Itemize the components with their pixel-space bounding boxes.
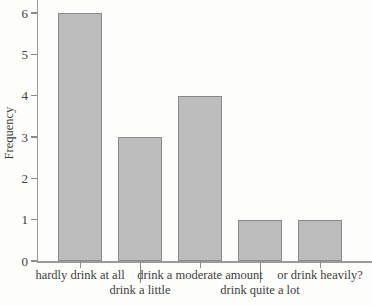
y-tick	[31, 219, 37, 221]
y-tick	[31, 136, 37, 138]
y-axis-line	[37, 0, 39, 263]
x-axis-label: hardly drink at all	[35, 268, 124, 282]
x-tick	[200, 261, 201, 268]
y-tick	[31, 54, 37, 56]
x-axis-label: or drink heavily?	[277, 268, 362, 282]
y-tick	[31, 178, 37, 180]
bar	[238, 220, 282, 261]
y-tick-label: 0	[6, 255, 28, 268]
x-tick	[320, 261, 321, 268]
bar	[298, 220, 342, 261]
y-tick-label: 6	[6, 7, 28, 20]
y-tick-label: 2	[6, 172, 28, 185]
y-tick	[31, 95, 37, 97]
y-tick-label: 3	[6, 131, 28, 144]
bar	[58, 13, 102, 261]
y-tick-label: 1	[6, 213, 28, 226]
x-tick	[80, 261, 81, 268]
bar-chart-figure: Frequency 0123456 hardly drink at alldri…	[0, 0, 372, 306]
y-tick-label: 5	[6, 48, 28, 61]
x-axis-label: drink quite a lot	[220, 283, 300, 297]
x-axis-label: drink a little	[109, 283, 170, 297]
bar	[178, 96, 222, 261]
y-tick	[31, 260, 37, 262]
bar	[118, 137, 162, 261]
x-axis-label: drink a moderate amount	[137, 268, 262, 282]
y-tick	[31, 12, 37, 14]
y-tick-label: 4	[6, 89, 28, 102]
x-axis-line	[37, 261, 372, 263]
